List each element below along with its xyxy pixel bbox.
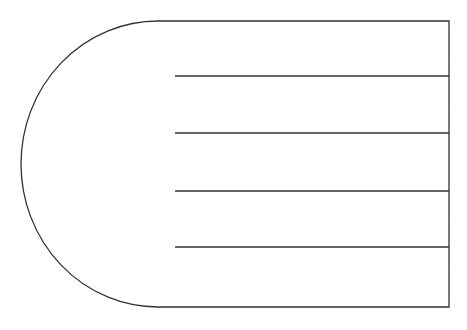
horizontal-lines-group [175,76,449,247]
d-shape-outline [21,21,449,307]
diagram-canvas [0,0,467,330]
